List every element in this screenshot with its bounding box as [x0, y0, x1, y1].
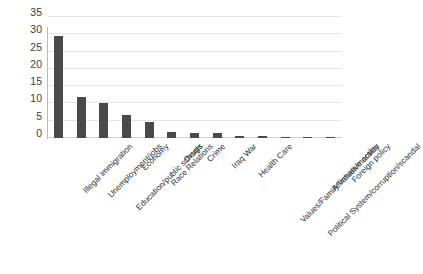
y-tick-label-20: 20 [2, 59, 42, 69]
bar [77, 97, 86, 138]
bars-layer [47, 17, 342, 138]
x-axis-category-labels: Illegal immigrationUnemployment/jobsEduc… [47, 140, 350, 274]
bar [281, 137, 290, 138]
y-tick-label-30: 30 [2, 24, 42, 34]
bar [258, 136, 267, 138]
bar [99, 103, 108, 138]
bar [326, 137, 335, 138]
bar [145, 122, 154, 138]
y-tick-label-10: 10 [2, 93, 42, 103]
y-tick-label-5: 5 [2, 111, 42, 121]
bar [190, 133, 199, 138]
x-axis-label: Illegal immigration [82, 142, 135, 195]
bar [303, 137, 312, 138]
x-axis-label: Health Care [257, 142, 294, 179]
y-tick-label-0: 0 [2, 128, 42, 138]
bar [54, 36, 63, 138]
chart-caption [0, 270, 350, 274]
chart-title [0, 0, 350, 4]
y-tick-label-15: 15 [2, 76, 42, 86]
bar [235, 136, 244, 138]
bar [167, 132, 176, 138]
bar [213, 133, 222, 138]
y-tick-label-25: 25 [2, 42, 42, 52]
y-axis-tick-labels: 05101520253035 [0, 17, 42, 138]
bar [122, 115, 131, 138]
x-axis-label: Iraq War [230, 142, 258, 170]
y-tick-label-35: 35 [2, 7, 42, 17]
